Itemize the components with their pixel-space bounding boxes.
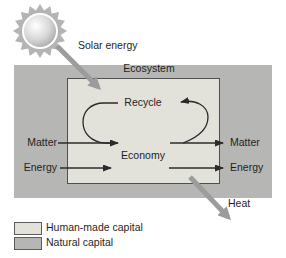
matter-out-label: Matter — [230, 136, 260, 148]
recycle-label: Recycle — [67, 96, 219, 108]
heat-label: Heat — [228, 197, 250, 209]
human-made-capital-box — [67, 78, 220, 184]
matter-in-label: Matter — [14, 136, 57, 148]
legend-label-natural-capital: Natural capital — [46, 236, 113, 248]
diagram: Solar energy Ecosystem Recycle Economy M… — [0, 0, 286, 258]
solar-energy-label: Solar energy — [78, 39, 138, 51]
economy-label: Economy — [67, 149, 219, 161]
ecosystem-label: Ecosystem — [20, 62, 278, 74]
legend-label-human-made-capital: Human-made capital — [46, 221, 143, 233]
energy-in-label: Energy — [14, 161, 57, 173]
energy-out-label: Energy — [230, 161, 263, 173]
legend-swatch-human-made-capital — [14, 222, 42, 235]
legend-swatch-natural-capital — [14, 237, 42, 250]
sun-icon — [13, 4, 67, 58]
